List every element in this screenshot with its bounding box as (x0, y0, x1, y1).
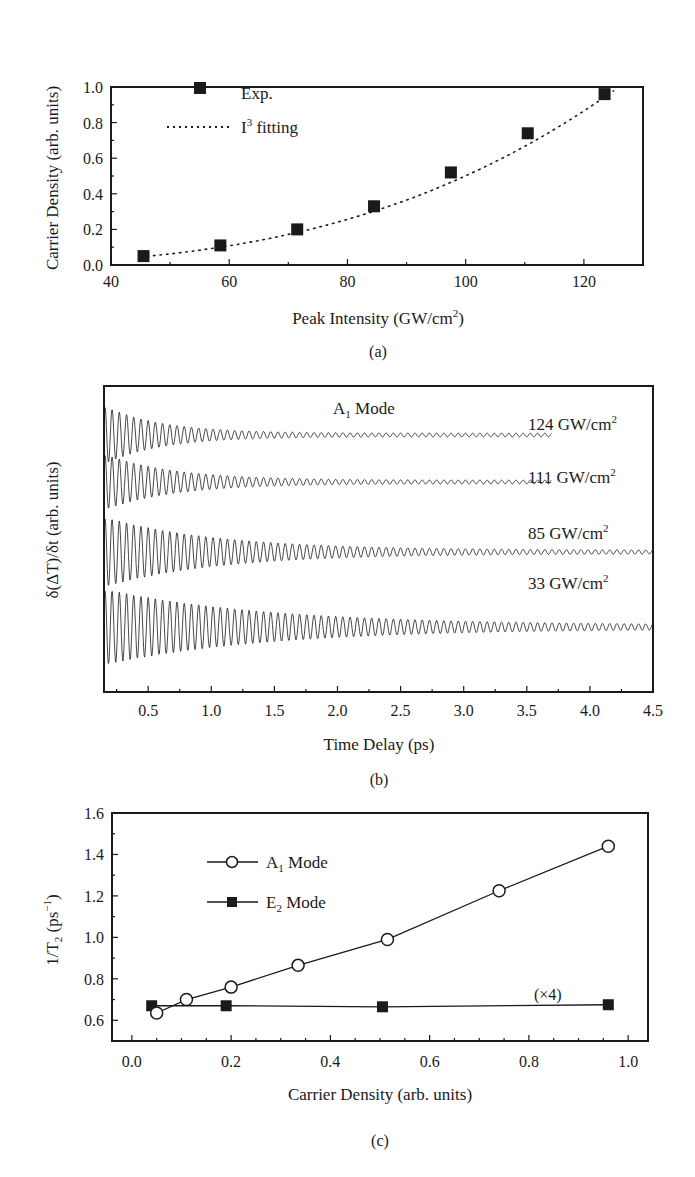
legend-e2-label: E2 Mode (266, 893, 326, 914)
data-point-a1 (381, 933, 393, 945)
data-point-exp (214, 239, 226, 251)
x-tick-label: 0.6 (420, 1053, 440, 1070)
x-tick-label: 0.8 (519, 1053, 539, 1070)
y-tick-label: 0.8 (84, 971, 104, 988)
legend-a1-label: A1 Mode (266, 853, 328, 874)
x-tick-label: 1.0 (618, 1053, 638, 1070)
legend-fit-label: I3 fitting (241, 116, 298, 137)
trace-label-85: 85 GW/cm2 (528, 522, 609, 543)
panel-b-axis-ticks: 0.51.01.52.02.53.03.54.04.5 (117, 686, 663, 719)
y-tick-label: 1.2 (84, 888, 104, 905)
fit-curve (141, 91, 614, 257)
legend-a1-open-circle-icon (227, 857, 238, 868)
panel-b-caption: (b) (370, 771, 389, 789)
x-tick-label: 60 (221, 273, 237, 290)
legend-exp-label: Exp. (241, 84, 273, 103)
oscillation-trace (105, 591, 653, 663)
panel-a: 4060801001200.00.20.40.60.81.0 Exp. I3 f… (43, 79, 643, 361)
y-tick-label: 1.4 (84, 846, 104, 863)
x-tick-label: 0.4 (320, 1053, 340, 1070)
panel-a-axis-ticks: 4060801001200.00.20.40.60.81.0 (83, 79, 643, 290)
x-tick-label: 0.5 (138, 702, 158, 719)
panel-b-mode-annotation: A1 Mode (333, 399, 395, 420)
y-tick-label: 0.0 (83, 257, 103, 274)
panel-c-y-axis-label: 1/T2 (ps−1) (41, 894, 64, 966)
y-tick-label: 0.6 (83, 150, 103, 167)
panel-c-axis-ticks: 0.00.20.40.60.81.00.60.81.01.21.41.6 (84, 805, 638, 1070)
data-point-exp (368, 200, 380, 212)
y-tick-label: 0.6 (84, 1012, 104, 1029)
y-tick-label: 0.2 (83, 221, 103, 238)
x-tick-label: 1.0 (201, 702, 221, 719)
y-tick-label: 1.6 (84, 805, 104, 822)
data-point-e2 (377, 1001, 388, 1012)
data-point-exp (138, 250, 150, 262)
y-tick-label: 1.0 (83, 79, 103, 96)
x-tick-label: 4.0 (580, 702, 600, 719)
data-point-exp (599, 88, 611, 100)
panel-a-frame (111, 87, 643, 265)
x-tick-label: 1.5 (264, 702, 284, 719)
x-tick-label: 0.0 (122, 1053, 142, 1070)
panel-c-scale-annotation: (×4) (534, 986, 562, 1004)
y-tick-label: 0.4 (83, 186, 103, 203)
x-tick-label: 4.5 (643, 702, 663, 719)
panel-c-caption: (c) (371, 1132, 389, 1150)
legend-e2-filled-square-icon (227, 897, 237, 907)
x-tick-label: 0.2 (221, 1053, 241, 1070)
x-tick-label: 2.0 (327, 702, 347, 719)
panel-a-x-axis-label: Peak Intensity (GW/cm2) (292, 307, 464, 328)
data-point-exp (522, 127, 534, 139)
data-point-a1 (602, 840, 614, 852)
data-point-e2 (221, 1000, 232, 1011)
data-point-exp (445, 166, 457, 178)
panel-b-x-axis-label: Time Delay (ps) (324, 735, 435, 754)
panel-b: 0.51.01.52.02.53.03.54.04.5 A1 Mode 124 … (43, 386, 663, 789)
data-point-a1 (292, 959, 304, 971)
panel-c: 0.00.20.40.60.81.00.60.81.01.21.41.6 A1 … (41, 805, 648, 1150)
x-tick-label: 3.0 (454, 702, 474, 719)
panel-b-y-axis-label: δ(ΔT)/δt (arb. units) (43, 462, 62, 599)
data-point-exp (291, 223, 303, 235)
oscillation-trace (105, 408, 551, 462)
trace-label-124: 124 GW/cm2 (528, 413, 617, 434)
x-tick-label: 40 (103, 273, 119, 290)
trace-label-111: 111 GW/cm2 (528, 466, 616, 487)
y-tick-label: 0.8 (83, 115, 103, 132)
x-tick-label: 2.5 (391, 702, 411, 719)
panel-a-y-axis-label: Carrier Density (arb. units) (43, 86, 62, 270)
x-tick-label: 120 (572, 273, 596, 290)
trace-label-33: 33 GW/cm2 (528, 572, 609, 593)
x-tick-label: 80 (339, 273, 355, 290)
data-point-a1 (151, 1007, 163, 1019)
data-point-a1 (225, 981, 237, 993)
data-point-a1 (180, 994, 192, 1006)
data-point-a1 (493, 885, 505, 897)
panel-a-plot-area (138, 88, 614, 262)
x-tick-label: 3.5 (517, 702, 537, 719)
data-point-e2 (603, 999, 614, 1010)
y-tick-label: 1.0 (84, 929, 104, 946)
legend-exp-marker-icon (194, 82, 206, 94)
oscillation-trace (105, 456, 551, 509)
panel-c-x-axis-label: Carrier Density (arb. units) (288, 1085, 472, 1104)
x-tick-label: 100 (454, 273, 478, 290)
panel-a-caption: (a) (369, 343, 387, 361)
figure: 4060801001200.00.20.40.60.81.0 Exp. I3 f… (0, 0, 695, 1177)
